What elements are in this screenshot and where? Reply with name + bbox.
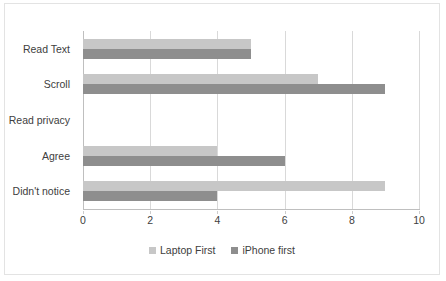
- y-axis-label: Agree: [5, 138, 77, 174]
- bar-0-0: [83, 39, 251, 49]
- y-axis-label: Read Text: [5, 31, 77, 67]
- bar-group: [83, 67, 419, 103]
- legend-item-0[interactable]: Laptop First: [149, 244, 215, 256]
- x-axis-tick-labels: 0246810: [83, 211, 419, 229]
- chart-legend: Laptop FirstiPhone first: [5, 244, 439, 256]
- legend-label: Laptop First: [160, 244, 215, 256]
- x-axis-label: 4: [214, 214, 220, 226]
- bar-1-0: [83, 49, 251, 59]
- legend-label: iPhone first: [242, 244, 295, 256]
- x-axis-label: 6: [282, 214, 288, 226]
- y-axis-label: Read privacy: [5, 102, 77, 138]
- x-axis-label: 10: [413, 214, 425, 226]
- y-axis-label: Scroll: [5, 67, 77, 103]
- bar-group: [83, 173, 419, 209]
- y-axis-label: Didn't notice: [5, 173, 77, 209]
- x-axis-label: 2: [147, 214, 153, 226]
- legend-swatch-icon: [231, 247, 238, 254]
- y-axis-category-labels: Read TextScrollRead privacyAgreeDidn't n…: [5, 31, 77, 209]
- x-axis-label: 8: [349, 214, 355, 226]
- bar-group: [83, 31, 419, 67]
- plot-area: [83, 31, 419, 209]
- x-axis-label: 0: [80, 214, 86, 226]
- legend-item-1[interactable]: iPhone first: [231, 244, 295, 256]
- x-axis-line: [83, 209, 420, 210]
- gridline-10: [419, 31, 420, 209]
- bar-0-4: [83, 181, 385, 191]
- bar-0-3: [83, 146, 217, 156]
- legend-swatch-icon: [149, 247, 156, 254]
- bar-1-4: [83, 191, 217, 201]
- bar-group: [83, 138, 419, 174]
- bar-0-1: [83, 74, 318, 84]
- chart-container: Read TextScrollRead privacyAgreeDidn't n…: [4, 3, 440, 275]
- bar-1-1: [83, 84, 385, 94]
- bar-group: [83, 102, 419, 138]
- bar-rows: [83, 31, 419, 209]
- bar-1-3: [83, 156, 285, 166]
